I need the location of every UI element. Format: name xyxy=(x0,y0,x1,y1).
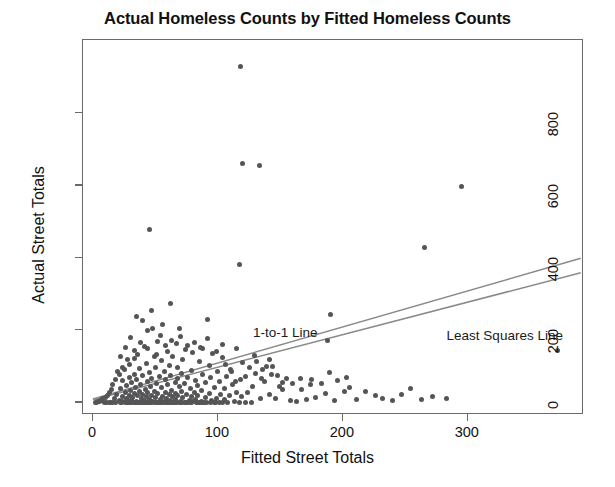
data-point xyxy=(258,396,263,401)
data-point xyxy=(253,371,258,376)
data-point xyxy=(202,400,207,405)
data-point xyxy=(93,400,98,405)
data-point xyxy=(325,338,330,343)
data-point xyxy=(217,379,222,384)
data-point xyxy=(224,374,229,379)
data-point xyxy=(123,345,128,350)
data-point xyxy=(118,386,123,391)
data-point xyxy=(430,394,435,399)
data-point xyxy=(288,398,293,403)
data-point xyxy=(140,373,145,378)
data-point xyxy=(243,400,248,405)
data-point xyxy=(232,399,237,404)
data-point xyxy=(284,376,289,381)
y-tick-mark xyxy=(75,329,82,330)
data-point xyxy=(257,163,262,168)
data-point xyxy=(223,362,228,367)
data-point xyxy=(273,396,278,401)
data-point xyxy=(225,400,230,405)
data-point xyxy=(132,356,137,361)
x-tick-mark xyxy=(467,414,468,421)
data-point xyxy=(177,326,182,331)
data-point xyxy=(157,374,162,379)
data-point xyxy=(237,262,242,267)
data-point xyxy=(249,400,254,405)
data-point xyxy=(313,395,318,400)
data-point xyxy=(208,375,213,380)
data-point xyxy=(234,346,239,351)
data-point xyxy=(147,400,152,405)
data-point xyxy=(198,345,203,350)
data-point xyxy=(147,227,152,232)
data-point xyxy=(182,400,187,405)
chart-title: Actual Homeless Counts by Fitted Homeles… xyxy=(0,9,615,28)
data-point xyxy=(153,365,158,370)
y-tick-label: 200 xyxy=(545,329,561,353)
y-tick-label: 400 xyxy=(545,257,561,281)
data-point xyxy=(183,347,188,352)
data-point xyxy=(192,340,197,345)
data-point xyxy=(234,390,239,395)
data-point xyxy=(205,336,210,341)
scatter-plot-figure: Actual Homeless Counts by Fitted Homeles… xyxy=(0,0,615,487)
data-point xyxy=(134,377,139,382)
plot-panel: 1-to-1 Line Least Squares Line xyxy=(82,39,583,414)
data-point xyxy=(134,314,139,319)
data-point xyxy=(129,380,134,385)
data-point xyxy=(149,308,154,313)
data-point xyxy=(140,318,145,323)
data-point xyxy=(169,338,174,343)
data-point xyxy=(444,396,449,401)
data-point xyxy=(207,363,212,368)
data-point xyxy=(138,382,143,387)
data-point xyxy=(323,391,328,396)
annotation-one-to-one-line: 1-to-1 Line xyxy=(253,325,318,340)
data-point xyxy=(212,400,217,405)
data-point xyxy=(327,370,332,375)
y-tick-mark xyxy=(75,257,82,258)
data-points-layer xyxy=(83,40,582,413)
data-point xyxy=(154,352,159,357)
data-point xyxy=(254,359,259,364)
data-point xyxy=(267,357,272,362)
data-point xyxy=(165,349,170,354)
data-point xyxy=(233,379,238,384)
y-tick-mark xyxy=(75,401,82,402)
data-point xyxy=(160,322,165,327)
data-point xyxy=(203,380,208,385)
x-tick-mark xyxy=(342,414,343,421)
data-point xyxy=(147,370,152,375)
data-point xyxy=(165,382,170,387)
x-tick-mark xyxy=(217,414,218,421)
y-tick-mark xyxy=(75,112,82,113)
data-point xyxy=(212,385,217,390)
data-point xyxy=(422,245,427,250)
data-point xyxy=(218,392,223,397)
data-point xyxy=(240,360,245,365)
data-point xyxy=(148,384,153,389)
x-tick-label: 0 xyxy=(88,424,96,440)
data-point xyxy=(168,373,173,378)
data-point xyxy=(308,382,313,387)
data-point xyxy=(240,161,245,166)
data-point xyxy=(180,357,185,362)
data-point xyxy=(363,389,368,394)
data-point xyxy=(332,398,337,403)
data-point xyxy=(170,354,175,359)
data-point xyxy=(319,381,324,386)
data-point xyxy=(155,339,160,344)
data-point xyxy=(294,399,299,404)
data-point xyxy=(373,393,378,398)
x-tick-label: 200 xyxy=(330,424,354,440)
data-point xyxy=(459,184,464,189)
x-tick-mark xyxy=(92,414,93,421)
data-point xyxy=(399,392,404,397)
data-point xyxy=(144,361,149,366)
y-tick-label: 600 xyxy=(545,184,561,208)
data-point xyxy=(275,373,280,378)
data-point xyxy=(243,374,248,379)
data-point xyxy=(137,366,142,371)
data-point xyxy=(267,392,272,397)
x-tick-label: 300 xyxy=(455,424,479,440)
data-point xyxy=(239,394,244,399)
